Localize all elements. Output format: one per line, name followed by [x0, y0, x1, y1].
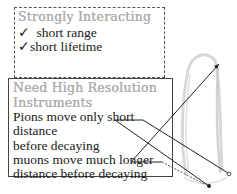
- text-line-5: distance before decaying: [13, 166, 147, 182]
- text-line-2: distance: [13, 123, 57, 139]
- bullet-short-lifetime: ✓short lifetime: [18, 38, 102, 55]
- check-icon: ✓: [18, 38, 30, 55]
- resolution-heading-line1: Need High Resolution: [13, 80, 157, 95]
- particle-track-sketch: [182, 55, 226, 183]
- bullet-text: short lifetime: [30, 39, 102, 54]
- strongly-interacting-heading: Strongly Interacting: [18, 9, 151, 24]
- resolution-heading-line2: Instruments: [13, 95, 92, 110]
